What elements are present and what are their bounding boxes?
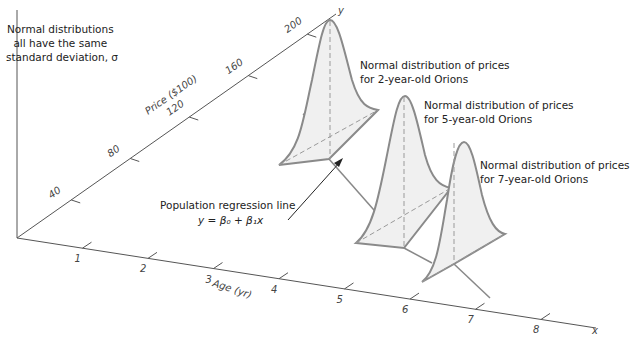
age-axis-end-label: x [591,325,598,336]
age-tick [82,242,91,248]
regression-label: Population regression line [160,199,296,211]
age-ticks: 12345678 [74,242,549,335]
age-tick [344,283,353,289]
distribution-2yr [279,20,378,165]
price-axis-end-label: y [337,5,345,16]
price-tick [71,200,80,203]
price-tick-label: 40 [46,184,63,200]
dist-5yr-label: Normal distribution of prices for 5-year… [424,99,577,125]
age-tick [279,273,288,279]
age-tick [148,252,157,258]
price-tick [248,76,257,79]
regression-line-segment [404,248,432,263]
dist-2yr-label: Normal distribution of prices for 2-year… [360,59,513,85]
age-tick [410,293,419,299]
age-tick-label: 5 [336,294,342,305]
regression-line-segment [454,264,490,298]
age-tick [541,313,550,319]
age-axis [17,238,596,328]
price-tick [189,117,198,120]
age-axis-label: Age (yr) [210,277,253,300]
regression-diagram: y x 12345678 4080120160200 Age (yr) Pric… [0,0,638,343]
regression-equation: y = β₀ + β₁x [197,214,264,226]
age-tick [213,263,222,269]
price-tick-label: 200 [282,15,304,35]
age-tick-label: 7 [467,314,474,325]
price-tick [307,34,316,37]
age-tick-label: 8 [533,324,539,335]
age-tick [475,303,484,309]
price-tick-label: 160 [223,56,245,76]
sd-note: Normal distributions all have the same s… [6,23,118,63]
age-tick-label: 1 [74,253,80,264]
price-tick [130,158,139,161]
age-tick-label: 4 [271,284,277,295]
regression-arrow [288,162,340,220]
price-tick-label: 80 [105,143,122,159]
dist-7yr-label: Normal distribution of prices for 7-year… [480,159,633,185]
age-tick-label: 3 [205,274,211,285]
age-tick-label: 2 [140,263,146,274]
regression-line-segment [329,159,381,218]
age-tick-label: 6 [402,304,408,315]
